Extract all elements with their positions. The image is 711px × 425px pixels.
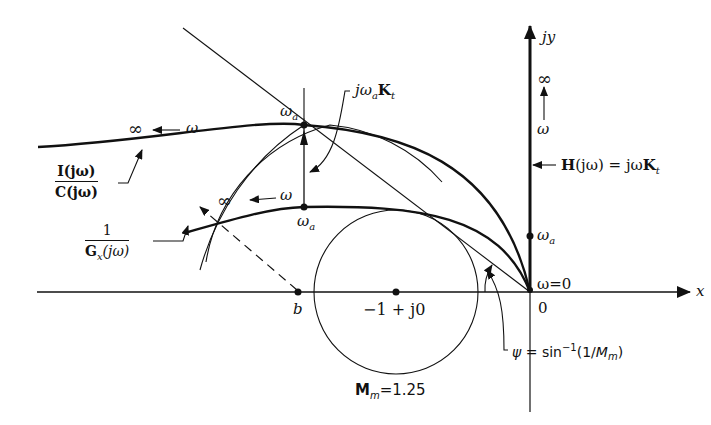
- lower-omega-label: ω: [280, 188, 292, 203]
- gx-curve: [188, 207, 530, 292]
- x-axis-label: x: [696, 284, 704, 299]
- origin-point: [527, 287, 533, 293]
- upper-omega-a-label: ωa: [280, 104, 298, 122]
- omega-zero-label: ω=0: [537, 277, 571, 292]
- ic-leader: [118, 150, 142, 183]
- psi-label: ψ = sin−1(1/Mm): [512, 343, 623, 362]
- b-point: [295, 289, 302, 296]
- jwakt-label: jωaKt: [355, 83, 395, 101]
- b-label: b: [293, 302, 303, 317]
- axis-omega-a-label: ωa: [537, 228, 555, 246]
- psi-arc: [485, 265, 492, 292]
- lower-omega-a-point: [301, 204, 308, 211]
- yaxis-omega-label: ω: [537, 122, 549, 137]
- mm-label: Mm=1.25: [355, 383, 426, 401]
- gx-leader: [153, 226, 188, 241]
- psi-leader: [487, 270, 508, 350]
- jwakt-arrowhead: [300, 130, 308, 145]
- top-infinity-label: ∞: [128, 120, 143, 138]
- minus-one-point: [393, 289, 400, 296]
- jwakt-leader: [310, 91, 350, 172]
- axis-omega-a-point: [527, 233, 534, 240]
- h-label: H(jω) = jωKt: [561, 158, 660, 176]
- minus-one-label: −1 + j0: [363, 302, 425, 318]
- gx-label: 1 Gx(jω): [85, 222, 129, 262]
- upper-omega-a-point: [301, 122, 308, 129]
- ic-label: I(jω) C(jω): [55, 163, 98, 200]
- dashed-radius: [200, 207, 297, 290]
- lower-infinity-label: ∞: [217, 192, 232, 210]
- y-axis-label: jy: [542, 30, 555, 45]
- tangent-line: [183, 28, 530, 292]
- lower-direction-arrow: [250, 198, 276, 200]
- top-omega-label: ω: [186, 121, 198, 136]
- lower-omega-a-label: ωa: [297, 214, 315, 232]
- yaxis-infinity-label: ∞: [537, 70, 552, 88]
- origin-label: 0: [538, 301, 548, 316]
